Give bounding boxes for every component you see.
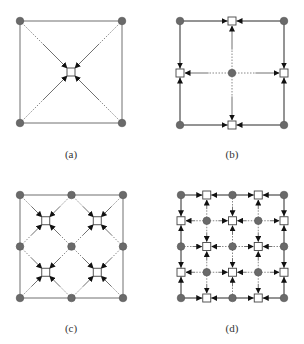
interpolation-node-square [176,69,184,77]
grid-node-circle [16,191,24,199]
grid-node-circle [68,294,76,302]
figure-canvas [0,0,304,344]
grid-node-circle [16,294,24,302]
panel-a-diagram [16,17,126,127]
interpolation-node-square [42,217,50,225]
interpolation-node-square [42,268,50,276]
arrow-segment [50,207,60,217]
grid-node-circle [229,191,237,199]
interpolation-node-square [254,294,262,302]
panel-c-diagram [16,191,127,302]
interpolation-node-square [280,217,288,225]
interpolation-node-square [280,69,288,77]
dotted-segment [20,21,43,44]
grid-node-circle [229,294,237,302]
grid-node-circle [280,17,288,25]
arrow-segment [101,258,111,268]
interpolation-node-square [254,191,262,199]
arrow-segment [75,76,99,100]
grid-node-circle [254,268,262,276]
arrow-segment [50,258,60,268]
grid-node-circle [280,243,288,251]
grid-node-circle [280,294,288,302]
grid-node-circle [16,17,24,25]
grid-node-circle [177,191,185,199]
grid-node-circle [68,191,76,199]
grid-node-circle [16,119,24,127]
caption-c: (c) [65,322,77,334]
grid-node-circle [177,243,185,251]
interpolation-node-square [93,217,101,225]
arrow-segment [50,225,60,235]
grid-node-circle [176,17,184,25]
dotted-segment [99,21,122,44]
arrow-segment [32,225,42,235]
interpolation-node-square [67,68,75,76]
interpolation-node-square [177,268,185,276]
dotted-segment [20,100,43,123]
arrow-segment [43,76,67,100]
interpolation-node-square [203,294,211,302]
arrow-segment [32,207,42,217]
arrow-segment [32,276,42,286]
arrow-segment [83,225,93,235]
grid-node-circle [203,217,211,225]
grid-node-circle [228,69,236,77]
grid-node-circle [176,121,184,129]
interpolation-node-square [280,268,288,276]
caption-b: (b) [226,148,239,160]
interpolation-node-square [93,268,101,276]
arrow-segment [75,44,99,68]
panel-d-diagram [177,191,288,302]
caption-d: (d) [226,322,239,334]
grid-node-circle [119,243,127,251]
grid-node-circle [203,268,211,276]
interpolation-node-square [228,121,236,129]
interpolation-node-square [228,17,236,25]
interpolation-node-square [254,243,262,251]
grid-node-circle [177,294,185,302]
arrow-segment [101,225,111,235]
arrow-segment [50,276,60,286]
arrow-segment [83,207,93,217]
grid-node-circle [254,217,262,225]
caption-a: (a) [65,148,77,160]
dotted-segment [99,100,122,123]
grid-node-circle [16,243,24,251]
grid-node-circle [118,119,126,127]
arrow-segment [32,258,42,268]
arrow-segment [101,276,111,286]
grid-node-circle [118,17,126,25]
arrow-segment [43,44,67,68]
grid-node-circle [280,191,288,199]
arrow-segment [101,207,111,217]
interpolation-node-square [203,191,211,199]
interpolation-node-square [177,217,185,225]
grid-node-circle [68,243,76,251]
panel-b-diagram [176,17,288,129]
grid-node-circle [280,121,288,129]
interpolation-node-square [203,243,211,251]
arrow-segment [83,258,93,268]
arrow-segment [83,276,93,286]
grid-node-circle [119,191,127,199]
grid-node-circle [229,243,237,251]
grid-node-circle [119,294,127,302]
interpolation-node-square [229,217,237,225]
interpolation-node-square [229,268,237,276]
